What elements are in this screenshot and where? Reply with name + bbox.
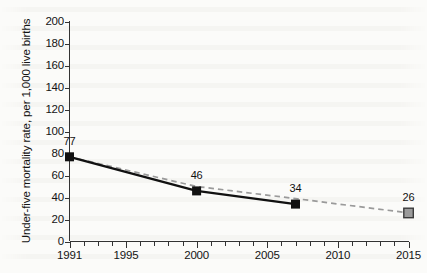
- data-point-label: 34: [283, 182, 309, 194]
- data-marker-observed: [291, 200, 300, 209]
- y-tick-label: 120: [30, 103, 64, 115]
- x-tick-label: 1995: [104, 249, 148, 261]
- y-tick-label: 160: [30, 59, 64, 71]
- data-point-label: 26: [396, 191, 422, 203]
- y-tick-label: 60: [30, 169, 64, 181]
- data-marker-target: [404, 208, 414, 218]
- x-tick-label: 2005: [245, 249, 289, 261]
- y-tick-label: 40: [30, 191, 64, 203]
- y-axis-ticks: [65, 23, 70, 243]
- y-tick-label: 20: [30, 213, 64, 225]
- x-axis-ticks: [71, 242, 410, 248]
- y-tick-label: 140: [30, 81, 64, 93]
- observed-series-line: [70, 157, 296, 204]
- axes: [70, 21, 410, 242]
- y-tick-label: 0: [30, 235, 64, 247]
- data-marker-observed: [65, 152, 74, 161]
- target-trend-line: [70, 157, 409, 213]
- data-point-markers: [65, 152, 413, 217]
- y-tick-label: 200: [30, 15, 64, 27]
- data-marker-observed: [192, 186, 201, 195]
- chart-figure: Under-five mortality rate, per 1,000 liv…: [0, 0, 427, 273]
- y-tick-label: 180: [30, 37, 64, 49]
- x-tick-label: 2010: [316, 249, 360, 261]
- data-point-label: 46: [184, 169, 210, 181]
- x-tick-label: 1991: [48, 249, 92, 261]
- x-tick-label: 2000: [175, 249, 219, 261]
- y-tick-label: 80: [30, 147, 64, 159]
- x-tick-label: 2015: [387, 249, 427, 261]
- data-point-label: 77: [57, 135, 83, 147]
